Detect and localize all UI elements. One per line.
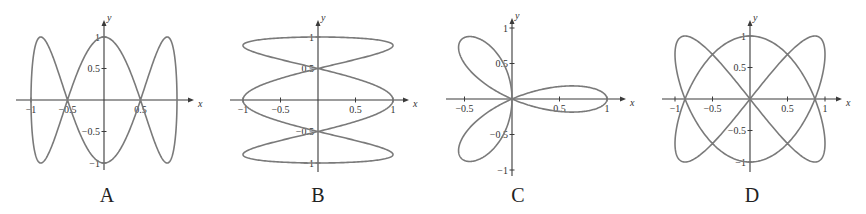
x-axis-arrow-icon [188,98,194,103]
y-axis-label: y [752,12,758,23]
x-tick-label: −0.5 [271,104,289,115]
figure-canvas: xy−1−0.50.510.5−0.5−1 xy−1−0.50.5110.5−0… [0,0,866,214]
graph-c: xy−0.50.5110.5−0.5−1 [446,10,635,176]
panel-label-d: D [745,184,759,207]
x-tick-label: 1 [823,103,828,114]
y-axis-arrow-icon [102,20,107,26]
y-axis-arrow-icon [316,20,321,26]
y-tick-label: 0.5 [734,62,747,73]
x-axis-label: x [197,98,203,109]
x-axis-label: x [845,97,851,108]
graph-b: xy−1−0.50.5110.5−0.5−1 [230,12,418,172]
graph-a: xy−1−0.50.510.5−0.5−1 [16,12,203,170]
y-axis-arrow-icon [748,20,753,26]
x-axis-arrow-icon [403,98,409,103]
y-tick-label: −0.5 [82,126,100,137]
graph-d: xy−1−0.50.5110.5−0.5−1 [662,12,851,172]
x-tick-label: 0.5 [781,103,794,114]
x-tick-label: −0.5 [455,103,473,114]
y-axis-label: y [514,10,520,21]
y-axis-arrow-icon [510,18,515,24]
y-axis-label: y [320,12,326,23]
x-tick-label: −1 [670,103,681,114]
x-axis-arrow-icon [620,97,626,102]
y-tick-label: −0.5 [728,125,746,136]
panel-label-c: C [511,184,524,207]
y-tick-label: −1 [497,165,508,176]
x-axis-arrow-icon [836,97,842,102]
y-axis-label: y [106,12,112,23]
x-tick-label: 0.5 [349,104,362,115]
y-tick-label: 1 [503,23,508,34]
x-tick-label: −0.5 [58,104,76,115]
panel-label-b: B [311,184,324,207]
x-tick-label: 1 [605,103,610,114]
x-axis-label: x [412,98,418,109]
y-tick-label: 0.5 [88,63,101,74]
panel-label-a: A [100,184,114,207]
x-tick-label: −0.5 [703,103,721,114]
x-axis-label: x [629,97,635,108]
